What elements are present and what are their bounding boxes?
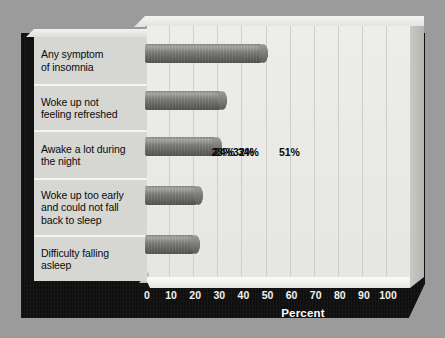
x-tick-label: 100	[379, 289, 397, 301]
category-label-line: feeling refreshed	[41, 108, 118, 120]
x-axis-ticks: 0102030405060708090100	[145, 289, 410, 304]
plot-floor	[145, 277, 410, 288]
x-tick-label: 60	[286, 289, 298, 301]
category-label: Awake a lot duringthe night	[34, 130, 147, 178]
category-label-line: Awake a lot during	[41, 143, 125, 155]
bar-value-label: 23%	[211, 146, 232, 158]
plot-wall-right-edge	[410, 26, 424, 288]
category-label: Woke up notfeeling refreshed	[34, 84, 147, 130]
category-label: Woke up too earlyand could not fallback …	[34, 178, 147, 235]
x-axis-title: Percent	[223, 307, 383, 319]
category-label-line: Woke up too early	[41, 189, 124, 201]
bar-texture	[145, 235, 200, 254]
bar-value-label: 32%	[233, 146, 254, 158]
x-tick-label: 10	[165, 289, 177, 301]
bar-texture	[145, 44, 268, 63]
category-label-line: asleep	[41, 259, 109, 271]
x-tick-label: 30	[213, 289, 225, 301]
x-tick-label: 80	[334, 289, 346, 301]
bar-texture	[145, 91, 227, 110]
x-tick-label: 40	[238, 289, 250, 301]
x-tick-label: 0	[144, 289, 150, 301]
label-panel-left-edge	[25, 37, 34, 281]
x-tick-label: 50	[262, 289, 274, 301]
category-label-list: Any symptomof insomniaWoke up notfeeling…	[34, 37, 147, 281]
x-tick-label: 90	[358, 289, 370, 301]
x-tick-label: 70	[310, 289, 322, 301]
bar-body	[145, 235, 200, 254]
category-label-line: Woke up not	[41, 96, 118, 108]
bar-value-label: 51%	[279, 146, 300, 158]
category-label-line: back to sleep	[41, 214, 124, 226]
category-label: Any symptomof insomnia	[34, 37, 147, 84]
category-label: Difficulty fallingasleep	[34, 235, 147, 281]
bar-body	[145, 91, 227, 110]
x-tick-label: 20	[189, 289, 201, 301]
bar	[145, 44, 268, 63]
bar	[145, 235, 200, 254]
category-label-line: Any symptom	[41, 48, 104, 60]
chart-container: Any symptomof insomniaWoke up notfeeling…	[0, 0, 445, 338]
bar-series: 51%34%32%24%23%	[145, 26, 410, 277]
category-label-line: of insomnia	[41, 61, 104, 73]
bar	[145, 91, 227, 110]
category-label-line: Difficulty falling	[41, 247, 109, 259]
bar-body	[145, 186, 203, 205]
bar-texture	[145, 186, 203, 205]
category-label-line: the night	[41, 155, 125, 167]
bar	[145, 186, 203, 205]
category-label-line: and could not fall	[41, 201, 124, 213]
bar-body	[145, 44, 268, 63]
